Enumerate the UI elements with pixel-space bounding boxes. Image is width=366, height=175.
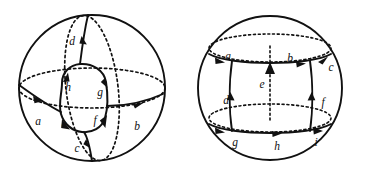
right-edge-d-label: d bbox=[223, 94, 229, 106]
left-edge-h-label: h bbox=[65, 81, 71, 93]
left-sphere-outline bbox=[19, 15, 165, 161]
right-sphere-outline bbox=[198, 16, 342, 160]
right-edge-b-arrowhead bbox=[296, 62, 306, 68]
two-sphere-diagram: Two spheres with directed edge decomposi… bbox=[0, 0, 366, 175]
right-edge-f-label: f bbox=[321, 96, 326, 109]
left-edge-e-label: e bbox=[61, 118, 66, 130]
right-edge-c-label: c bbox=[328, 61, 333, 73]
right-edge-g-label: g bbox=[232, 136, 238, 149]
right-edge-f-arrowhead bbox=[308, 92, 316, 101]
right-edge-a-label: a bbox=[225, 50, 231, 62]
right-edge-h-label: h bbox=[274, 140, 280, 152]
left-edge-d-label: d bbox=[69, 35, 75, 47]
right-edge-i-label: i bbox=[314, 136, 317, 148]
left-sphere-panel: d a b c h g e f bbox=[19, 12, 165, 163]
right-edge-e-label: e bbox=[259, 78, 264, 90]
left-edge-a-label: a bbox=[35, 115, 41, 127]
right-edge-b-label: b bbox=[287, 52, 293, 64]
left-edge-c-label: c bbox=[74, 142, 79, 154]
left-edge-b-label: b bbox=[134, 120, 140, 132]
left-edge-a-path bbox=[19, 85, 61, 112]
left-edge-f-label: f bbox=[93, 114, 98, 127]
left-edge-g-label: g bbox=[97, 86, 103, 99]
right-sphere-panel: a b c d e f g h i bbox=[198, 16, 342, 160]
figure-root: Two spheres with directed edge decomposi… bbox=[0, 0, 366, 175]
